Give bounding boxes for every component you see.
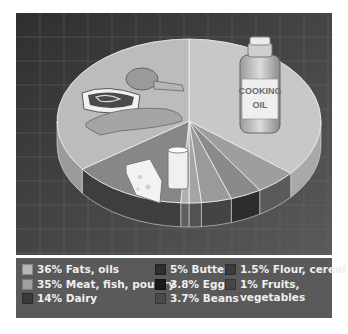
legend-label-eggs: 3.8% Eggs [170,278,231,291]
legend-swatch-fats-oils [22,264,33,275]
legend-label-fruits: 1% Fruits, vegetables [240,278,305,304]
bottle-label-line1: COOKING [238,86,281,96]
legend-swatch-flour [225,264,236,275]
pie-chart-panel: COOKING OIL [16,13,332,255]
legend: 36% Fats, oils 35% Meat, fish, poultry 1… [16,258,332,318]
legend-label-fats-oils: 36% Fats, oils [37,263,119,276]
legend-label-beans: 3.7% Beans [170,292,239,305]
legend-swatch-dairy [22,293,33,304]
legend-label-flour: 1.5% Flour, cereal [240,263,346,276]
legend-label-dairy: 14% Dairy [37,292,97,305]
legend-swatch-beans [155,293,166,304]
legend-swatch-meat [22,279,33,290]
bottle-label-line2: OIL [253,100,269,110]
pie-side-flour-cereal [189,203,201,227]
pie-side-fruits-vegetables [181,203,189,227]
pie-side-beans [201,199,231,227]
pie-chart: COOKING OIL [16,13,332,255]
legend-swatch-eggs [155,279,166,290]
legend-swatch-fruits [225,279,236,290]
legend-swatch-butter [155,264,166,275]
milk-glass-illustration [168,147,188,189]
legend-label-butter: 5% Butter [170,263,229,276]
